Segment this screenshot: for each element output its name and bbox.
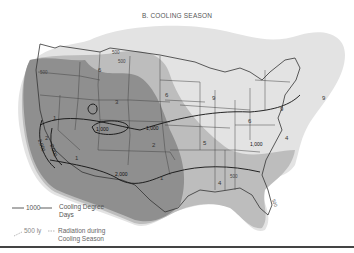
radiation-label: 500 xyxy=(118,59,126,64)
bottom-rule xyxy=(0,246,354,248)
contour-label: 1,000 xyxy=(96,126,109,132)
legend-degree-days-symbol: 1000 xyxy=(26,204,40,212)
legend-radiation-line-left xyxy=(14,232,22,236)
radiation-label: 500 xyxy=(40,70,48,75)
legend-radiation-line2: Cooling Season xyxy=(58,235,105,243)
radiation-label: 500 xyxy=(271,199,278,208)
contour-label: 2,000 xyxy=(115,171,128,177)
legend-degree-days-label: Cooling Degree Days xyxy=(59,203,104,219)
contour-label: 1,000 xyxy=(250,141,263,147)
legend-radiation-symbol: 500 ly xyxy=(24,227,41,235)
contour-label: 1,000 xyxy=(146,125,159,131)
radiation-label: 500 xyxy=(230,174,238,179)
legend-degree-days-line2: Days xyxy=(59,211,104,219)
legend-radiation-line1: Radiation during xyxy=(58,227,105,235)
cooling-season-map: 1,000 1,000 2,000 1,000 2,000 2,000 500 … xyxy=(0,0,354,253)
radiation-label: 500 xyxy=(112,50,120,55)
legend-degree-days-line1: Cooling Degree xyxy=(59,203,104,211)
legend-radiation-label: Radiation during Cooling Season xyxy=(58,227,105,243)
